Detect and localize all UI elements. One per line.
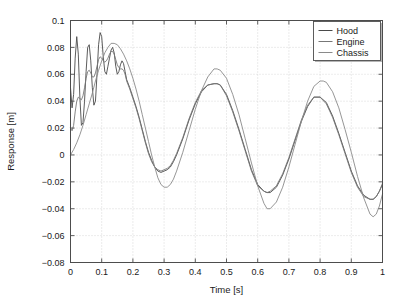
y-tick-label: 0.04	[47, 96, 65, 106]
y-tick-label: −0.02	[42, 177, 65, 187]
y-tick-label: −0.08	[42, 258, 65, 268]
legend[interactable]: HoodEngineChassis	[314, 22, 383, 63]
response-vs-time-line-chart: 00.10.20.30.40.50.60.70.80.910.10.080.06…	[0, 0, 396, 302]
legend-label-chassis[interactable]: Chassis	[337, 48, 370, 58]
x-tick-label: 1	[380, 267, 385, 277]
x-tick-label: 0.5	[220, 267, 233, 277]
y-tick-label: −0.04	[42, 204, 65, 214]
y-tick-label: −0.06	[42, 231, 65, 241]
y-tick-label: 0.08	[47, 43, 65, 53]
x-tick-label: 0.8	[314, 267, 327, 277]
y-tick-label: 0.1	[52, 16, 65, 26]
legend-label-hood[interactable]: Hood	[337, 26, 359, 36]
y-axis-label: Response [m]	[5, 112, 16, 171]
x-tick-label: 0.4	[189, 267, 202, 277]
chart-figure: 00.10.20.30.40.50.60.70.80.910.10.080.06…	[0, 0, 396, 302]
x-tick-label: 0.3	[158, 267, 171, 277]
y-tick-label: 0.02	[47, 123, 65, 133]
legend-label-engine[interactable]: Engine	[337, 37, 365, 47]
x-tick-label: 0.7	[283, 267, 296, 277]
x-tick-label: 0.6	[251, 267, 264, 277]
x-axis-label: Time [s]	[210, 284, 243, 295]
y-tick-label: 0.06	[47, 69, 65, 79]
y-tick-label: 0	[59, 150, 64, 160]
x-tick-label: 0.1	[95, 267, 108, 277]
x-tick-label: 0.9	[345, 267, 358, 277]
x-tick-label: 0	[68, 267, 73, 277]
x-tick-label: 0.2	[127, 267, 140, 277]
